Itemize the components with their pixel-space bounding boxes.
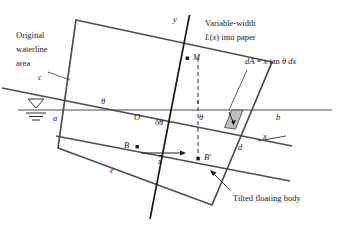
label-point-e: e [110,165,114,175]
label-delta-theta: δθ [155,117,163,127]
dA-equation: dA = x tan θ dx [245,56,296,66]
point-M-marker [186,57,189,60]
original-waterline-line [56,136,290,181]
x-bar-symbol: x [158,156,162,166]
label-point-b: b [276,112,280,122]
label-axis-x: x [263,131,267,141]
equals-sign: = [254,56,263,66]
original-waterline-area-line2: waterline [16,44,48,54]
label-point-Bprime: B′ [204,152,211,162]
dx-symbol: dx [286,56,296,66]
label-point-B: B [124,140,129,150]
original-waterline-area-line3: area [16,58,30,68]
tan-function: tan [267,56,282,66]
tilted-floating-body-label: Tilted floating body [233,193,301,203]
label-theta-left: θ [101,96,105,106]
label-point-a: a [53,113,57,123]
label-point-O: O [134,112,140,122]
label-point-d: d [238,142,242,152]
label-x-bar: x [158,156,162,166]
label-axis-y: y [173,14,177,24]
label-point-M: M [193,52,200,62]
waterline-area-leader [48,72,70,80]
variable-width-line2: L(x) into paper [205,32,256,42]
wedge-area-element [225,110,244,129]
label-theta-right: θ [199,112,203,122]
into-paper-text: into paper [219,32,255,42]
dA-leader-line [229,70,247,110]
variable-width-line1: Variable-width [205,18,256,28]
label-point-c: c [38,72,42,82]
point-B-marker [136,145,139,148]
point-Bprime-marker [196,157,199,160]
original-waterline-area-line1: Original [16,30,44,40]
